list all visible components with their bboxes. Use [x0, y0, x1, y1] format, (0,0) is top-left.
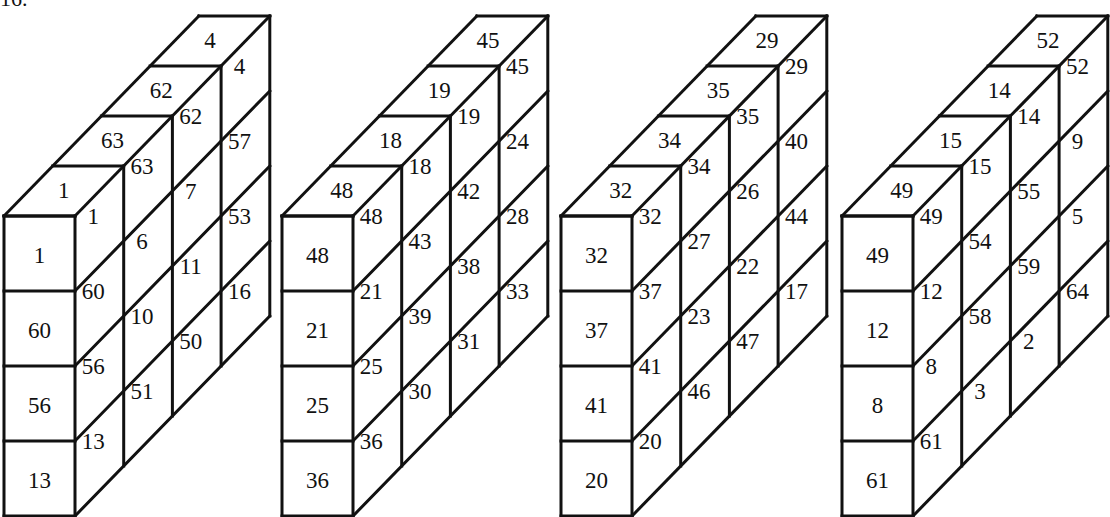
side-cell-value: 25: [360, 354, 383, 379]
side-cell-value: 43: [409, 229, 432, 254]
side-cell-value: 18: [409, 154, 432, 179]
front-cell-value: 56: [28, 393, 51, 418]
side-cell-value: 22: [736, 254, 759, 279]
side-cell-value: 39: [409, 304, 432, 329]
side-cell-value: 12: [920, 279, 943, 304]
front-cell-value: 8: [872, 393, 884, 418]
side-cell-value: 16: [228, 279, 251, 304]
side-cell-value: 10: [131, 304, 154, 329]
side-cell-value: 52: [1066, 54, 1089, 79]
side-cell-value: 47: [736, 329, 759, 354]
side-cell-value: 24: [506, 129, 530, 154]
side-cell-value: 55: [1017, 179, 1040, 204]
side-cell-value: 33: [506, 279, 529, 304]
front-cell-value: 60: [28, 318, 51, 343]
side-cell-value: 21: [360, 279, 383, 304]
front-cell-value: 1: [34, 243, 46, 268]
side-cell-value: 15: [969, 154, 992, 179]
side-cell-value: 45: [506, 54, 529, 79]
top-cell-value: 34: [658, 128, 682, 153]
side-cell-value: 62: [179, 104, 202, 129]
side-cell-value: 41: [639, 354, 662, 379]
side-cell-value: 42: [457, 179, 480, 204]
front-cell-value: 61: [866, 468, 889, 493]
side-cell-value: 61: [920, 429, 943, 454]
top-cell-value: 45: [476, 28, 499, 53]
top-cell-value: 14: [988, 78, 1012, 103]
front-cell-value: 49: [866, 243, 889, 268]
side-cell-value: 57: [228, 129, 251, 154]
side-cell-value: 2: [1023, 329, 1035, 354]
front-cell-value: 32: [585, 243, 608, 268]
side-cell-value: 32: [639, 204, 662, 229]
side-cell-value: 7: [185, 179, 197, 204]
slab-1: 1605613163624160561363610516271150457531…: [4, 16, 270, 516]
side-cell-value: 35: [736, 104, 759, 129]
side-cell-value: 49: [920, 204, 943, 229]
side-cell-value: 58: [969, 304, 992, 329]
side-cell-value: 11: [180, 254, 202, 279]
side-cell-value: 20: [639, 429, 662, 454]
front-cell-value: 48: [306, 243, 329, 268]
side-cell-value: 38: [457, 254, 480, 279]
top-cell-value: 52: [1036, 28, 1059, 53]
side-cell-value: 29: [785, 54, 808, 79]
front-cell-value: 37: [585, 318, 608, 343]
side-cell-value: 44: [785, 204, 809, 229]
front-cell-value: 20: [585, 468, 608, 493]
side-cell-value: 3: [974, 379, 986, 404]
side-cell-value: 9: [1072, 129, 1084, 154]
side-cell-value: 14: [1017, 104, 1041, 129]
side-cell-value: 63: [131, 154, 154, 179]
top-cell-value: 29: [755, 28, 778, 53]
slab-4: 4912861491514524912861155458314555925295…: [842, 16, 1108, 516]
front-cell-value: 36: [306, 468, 329, 493]
side-cell-value: 34: [688, 154, 712, 179]
side-cell-value: 56: [82, 354, 105, 379]
top-cell-value: 35: [707, 78, 730, 103]
side-cell-value: 53: [228, 204, 251, 229]
side-cell-value: 8: [926, 354, 938, 379]
front-cell-value: 12: [866, 318, 889, 343]
top-cell-value: 4: [204, 28, 216, 53]
slab-2: 4821253648181945482125361843393019423831…: [282, 16, 548, 516]
side-cell-value: 37: [639, 279, 662, 304]
side-cell-value: 31: [457, 329, 480, 354]
side-cell-value: 64: [1066, 279, 1090, 304]
side-cell-value: 54: [969, 229, 993, 254]
front-cell-value: 25: [306, 393, 329, 418]
side-cell-value: 26: [736, 179, 759, 204]
top-cell-value: 32: [609, 178, 632, 203]
top-cell-value: 63: [101, 128, 124, 153]
side-cell-value: 50: [179, 329, 202, 354]
front-cell-value: 13: [28, 468, 51, 493]
side-cell-value: 13: [82, 429, 105, 454]
front-cell-value: 21: [306, 318, 329, 343]
top-cell-value: 19: [428, 78, 451, 103]
side-cell-value: 6: [136, 229, 148, 254]
side-cell-value: 48: [360, 204, 383, 229]
side-cell-value: 4: [234, 54, 246, 79]
top-cell-value: 48: [330, 178, 353, 203]
top-cell-value: 15: [939, 128, 962, 153]
side-cell-value: 19: [457, 104, 480, 129]
side-cell-value: 17: [785, 279, 808, 304]
side-cell-value: 1: [88, 204, 100, 229]
slab-3: 3237412032343529323741203427234635262247…: [561, 16, 827, 516]
side-cell-value: 28: [506, 204, 529, 229]
side-cell-value: 60: [82, 279, 105, 304]
top-cell-value: 18: [379, 128, 402, 153]
side-cell-value: 5: [1072, 204, 1084, 229]
front-cell-value: 41: [585, 393, 608, 418]
side-cell-value: 40: [785, 129, 808, 154]
side-cell-value: 51: [131, 379, 154, 404]
top-cell-value: 49: [890, 178, 913, 203]
side-cell-value: 23: [688, 304, 711, 329]
top-cell-value: 62: [150, 78, 173, 103]
magic-cube-slabs-diagram: 1605613163624160561363610516271150457531…: [0, 0, 1110, 517]
side-cell-value: 27: [688, 229, 711, 254]
top-cell-value: 1: [58, 178, 70, 203]
side-cell-value: 36: [360, 429, 383, 454]
side-cell-value: 46: [688, 379, 711, 404]
side-cell-value: 59: [1017, 254, 1040, 279]
